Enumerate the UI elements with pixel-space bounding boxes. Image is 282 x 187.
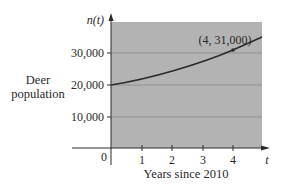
y-tick-label-10000: 10,000 (71, 110, 104, 124)
y-tick-label-30000: 30,000 (71, 46, 104, 60)
y-axis-symbol: n(t) (87, 13, 104, 27)
data-point-marker (231, 48, 235, 52)
x-tick-label-4: 4 (230, 153, 236, 167)
y-axis-title-line1: Deer (26, 73, 51, 87)
y-tick-label-20000: 20,000 (71, 78, 104, 92)
x-tick-label-3: 3 (200, 153, 206, 167)
x-tick-label-2: 2 (169, 153, 175, 167)
x-tick-label-1: 1 (139, 153, 145, 167)
chart: 30,000 20,000 10,000 0 1 2 3 4 t n(t) Ye… (0, 0, 282, 187)
y-axis-title-line2: population (11, 87, 65, 101)
point-annotation: (4, 31,000) (199, 33, 252, 47)
x-axis-title: Years since 2010 (144, 167, 229, 181)
origin-label: 0 (101, 150, 107, 164)
x-axis-symbol: t (265, 153, 269, 167)
x-axis-arrow-icon (261, 146, 270, 151)
y-axis-arrow-icon (109, 13, 114, 21)
